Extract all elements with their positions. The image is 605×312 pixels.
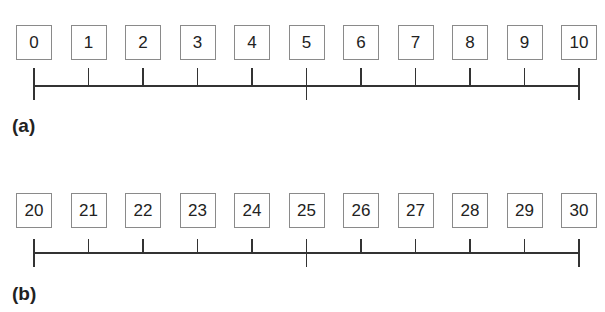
value-box: 25 (289, 193, 325, 228)
minor-tick (251, 239, 253, 253)
value-box: 29 (507, 193, 543, 228)
value-box: 27 (398, 193, 434, 228)
value-box: 28 (452, 193, 488, 228)
minor-tick (360, 239, 362, 253)
value-box: 26 (343, 193, 379, 228)
minor-tick (88, 239, 90, 253)
panel-label: (b) (12, 283, 36, 305)
number-line-panel-b: 2021222324252627282930(b) (0, 0, 605, 312)
value-box: 21 (71, 193, 107, 228)
minor-tick (197, 239, 199, 253)
minor-tick (142, 239, 144, 253)
minor-tick (415, 239, 417, 253)
value-box: 23 (180, 193, 216, 228)
minor-tick (524, 239, 526, 253)
number-line-axis (34, 252, 579, 254)
value-box: 20 (16, 193, 52, 228)
value-box: 30 (561, 193, 597, 228)
minor-tick (469, 239, 471, 253)
value-box: 24 (234, 193, 270, 228)
value-box: 22 (125, 193, 161, 228)
